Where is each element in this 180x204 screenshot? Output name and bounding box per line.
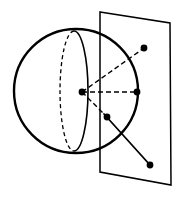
ray-center-to-mid-point bbox=[82, 92, 107, 117]
sphere-right-point bbox=[134, 89, 141, 96]
lower-right-point bbox=[147, 162, 154, 169]
mid-point bbox=[104, 114, 111, 121]
secant-line-mid-to-lower-right bbox=[104, 114, 150, 165]
sphere-outline bbox=[14, 29, 138, 153]
center-point bbox=[79, 89, 86, 96]
geometry-figure-svg bbox=[0, 0, 180, 204]
intersecting-plane bbox=[100, 12, 171, 185]
upper-right-point bbox=[141, 45, 148, 52]
great-circle-back-half-dashed bbox=[60, 31, 74, 151]
figure-container bbox=[0, 0, 180, 204]
